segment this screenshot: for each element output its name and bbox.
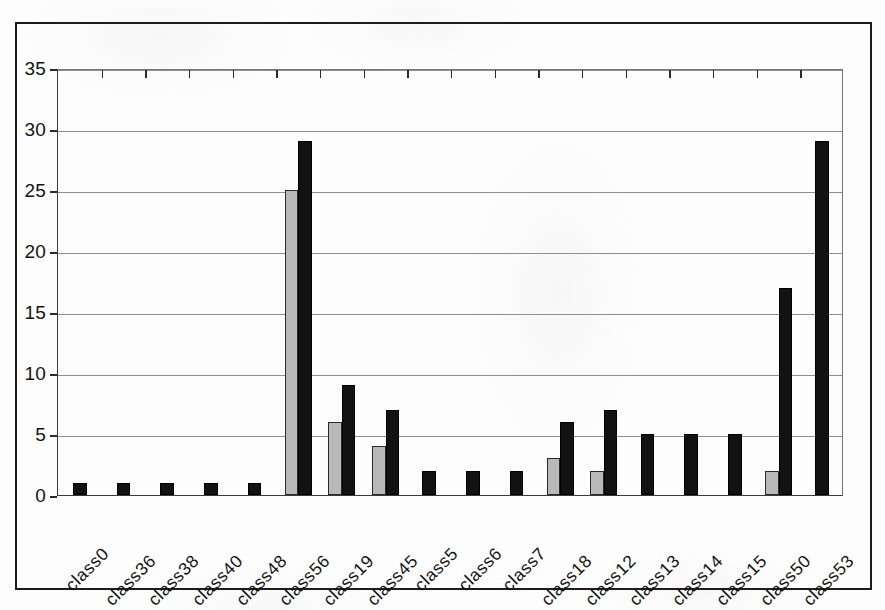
y-tick-mark (50, 313, 57, 315)
bar-series-b (422, 471, 436, 495)
bar-series-b (298, 141, 312, 495)
bar-series-b (641, 434, 655, 495)
bar-series-a (372, 446, 386, 495)
x-tick-mark (320, 70, 321, 78)
y-tick-label: 25 (24, 180, 46, 202)
gridline (58, 253, 842, 254)
gridline (58, 192, 842, 193)
x-tick-mark (102, 70, 103, 78)
y-tick-label: 10 (24, 363, 46, 385)
x-tick-mark (364, 70, 365, 78)
gridline (58, 314, 842, 315)
bar-series-b (204, 483, 218, 495)
x-tick-mark (495, 70, 496, 78)
y-tick-mark (50, 69, 57, 71)
bar-series-b (728, 434, 742, 495)
x-tick-mark (145, 70, 146, 78)
bar-series-b (73, 483, 87, 495)
gridline (58, 70, 842, 71)
bar-series-b (248, 483, 262, 495)
bar-series-b (342, 385, 356, 495)
gridline (58, 436, 842, 437)
x-tick-mark (582, 70, 583, 78)
y-tick-mark (50, 130, 57, 132)
bar-series-b (779, 288, 793, 495)
bar-series-b (604, 410, 618, 495)
bar-series-a (590, 471, 604, 495)
chart-screenshot: 05101520253035 class0class36class38class… (0, 0, 885, 610)
x-tick-mark (800, 70, 801, 78)
bar-series-a (328, 422, 342, 495)
y-axis-tick-labels: 05101520253035 (0, 0, 46, 610)
x-tick-mark (407, 70, 408, 78)
y-tick-label: 35 (24, 58, 46, 80)
plot-area (57, 69, 843, 496)
bar-series-b (117, 483, 131, 495)
y-tick-mark (50, 252, 57, 254)
bar-series-a (547, 458, 561, 495)
y-tick-label: 5 (35, 424, 46, 446)
x-tick-mark (757, 70, 758, 78)
y-tick-mark (50, 435, 57, 437)
y-tick-mark (50, 374, 57, 376)
x-tick-mark (189, 70, 190, 78)
bar-series-a (765, 471, 779, 495)
x-tick-mark (451, 70, 452, 78)
gridline (58, 131, 842, 132)
x-tick-mark (276, 70, 277, 78)
x-tick-mark (233, 70, 234, 78)
x-tick-mark (713, 70, 714, 78)
x-tick-mark (626, 70, 627, 78)
gridline (58, 375, 842, 376)
bar-series-b (510, 471, 524, 495)
bar-series-b (386, 410, 400, 495)
y-tick-label: 20 (24, 241, 46, 263)
x-tick-mark (538, 70, 539, 78)
y-tick-label: 30 (24, 119, 46, 141)
bar-series-b (560, 422, 574, 495)
bar-series-b (815, 141, 829, 495)
x-tick-mark (669, 70, 670, 78)
y-tick-label: 15 (24, 302, 46, 324)
y-tick-mark (50, 191, 57, 193)
y-tick-mark (50, 496, 57, 498)
bar-series-b (684, 434, 698, 495)
bar-series-b (466, 471, 480, 495)
bar-series-a (285, 190, 299, 495)
y-tick-label: 0 (35, 485, 46, 507)
bar-series-b (160, 483, 174, 495)
